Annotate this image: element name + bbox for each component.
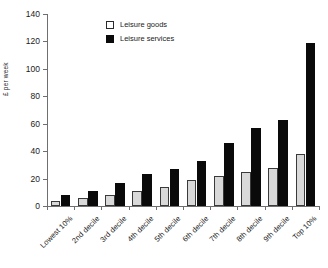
y-tick bbox=[43, 14, 47, 15]
bar bbox=[51, 201, 61, 206]
x-tick bbox=[183, 206, 184, 210]
bar bbox=[251, 128, 261, 206]
bar bbox=[296, 154, 306, 206]
y-tick bbox=[43, 69, 47, 70]
y-axis-label: £ per week bbox=[2, 26, 9, 96]
y-tick-label: 140 bbox=[26, 9, 40, 19]
x-tick bbox=[237, 206, 238, 210]
y-tick-label: 80 bbox=[31, 91, 40, 101]
bar bbox=[78, 198, 88, 206]
x-tick-label: 8th decile bbox=[235, 214, 265, 244]
x-tick-label: 5th decile bbox=[153, 214, 183, 244]
bar bbox=[88, 191, 98, 206]
x-tick-label: 6th decile bbox=[180, 214, 210, 244]
bar bbox=[241, 172, 251, 206]
bar bbox=[187, 180, 197, 206]
y-tick bbox=[43, 124, 47, 125]
chart-figure: £ per week Leisure goods Leisure service… bbox=[0, 0, 328, 268]
x-tick-label: 3rd decile bbox=[98, 214, 128, 244]
x-tick bbox=[156, 206, 157, 210]
x-tick-label: 4th decile bbox=[126, 214, 156, 244]
x-tick bbox=[319, 206, 320, 210]
x-tick bbox=[210, 206, 211, 210]
y-tick-label: 20 bbox=[31, 174, 40, 184]
x-tick-label: 2nd decile bbox=[70, 214, 101, 245]
bar bbox=[197, 161, 207, 206]
bar bbox=[306, 43, 316, 206]
x-tick bbox=[292, 206, 293, 210]
x-tick-label: 9th decile bbox=[262, 214, 292, 244]
y-tick bbox=[43, 96, 47, 97]
y-tick-label: 60 bbox=[31, 119, 40, 129]
y-tick-label: 120 bbox=[26, 36, 40, 46]
bar bbox=[105, 195, 115, 206]
bar bbox=[61, 195, 71, 206]
y-tick-label: 40 bbox=[31, 146, 40, 156]
bar bbox=[214, 176, 224, 206]
y-tick-label: 100 bbox=[26, 64, 40, 74]
bar bbox=[160, 187, 170, 206]
x-tick-label: Top 10% bbox=[291, 214, 318, 241]
bar bbox=[278, 120, 288, 206]
plot-area: 020406080100120140 Lowest 10%2nd decile3… bbox=[47, 14, 319, 206]
bar bbox=[115, 183, 125, 206]
x-tick bbox=[101, 206, 102, 210]
x-tick-label: 7th decile bbox=[207, 214, 237, 244]
bar bbox=[132, 191, 142, 206]
y-tick-label: 0 bbox=[35, 201, 40, 211]
bar bbox=[170, 169, 180, 206]
bar bbox=[224, 143, 234, 206]
x-tick bbox=[129, 206, 130, 210]
bar bbox=[268, 168, 278, 206]
y-tick bbox=[43, 179, 47, 180]
x-tick-label: Lowest 10% bbox=[38, 214, 74, 250]
y-tick bbox=[43, 41, 47, 42]
y-tick bbox=[43, 151, 47, 152]
x-tick bbox=[47, 206, 48, 210]
x-tick bbox=[74, 206, 75, 210]
x-tick bbox=[265, 206, 266, 210]
bar bbox=[142, 174, 152, 206]
y-axis-line bbox=[47, 14, 48, 206]
